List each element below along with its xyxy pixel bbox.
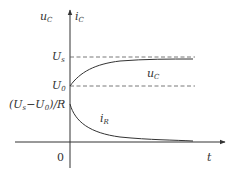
origin-label: 0 [57,152,64,163]
ic-axis-label: iC [75,11,84,24]
ir-curve-label: iR [100,113,109,126]
us-label: Us [52,51,65,64]
ir-curve [70,104,193,141]
uc-axis-label: uC [40,11,52,24]
t-axis-label: t [207,152,211,163]
plot-canvas [0,0,235,175]
u0-label: U0 [52,80,66,93]
uc-curve-label: uC [147,68,159,81]
initial-current-label: (Us−U0)/R [9,99,65,112]
uc-curve [70,59,193,86]
